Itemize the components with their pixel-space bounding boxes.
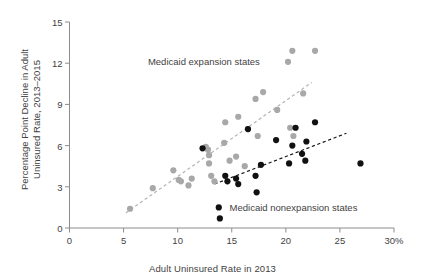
data-point bbox=[222, 173, 228, 179]
data-point bbox=[150, 185, 156, 191]
data-point bbox=[199, 145, 205, 151]
data-point bbox=[222, 119, 228, 125]
data-point bbox=[302, 158, 308, 164]
data-point bbox=[233, 175, 239, 181]
data-point bbox=[206, 152, 212, 158]
x-axis-title: Adult Uninsured Rate in 2013 bbox=[0, 263, 425, 274]
data-point bbox=[211, 178, 217, 184]
plot-area bbox=[0, 0, 425, 277]
data-point bbox=[217, 215, 223, 221]
data-point bbox=[252, 173, 258, 179]
nonexpansion-label: Medicaid nonexpansion states bbox=[230, 202, 358, 213]
data-point bbox=[178, 178, 184, 184]
data-point bbox=[252, 96, 258, 102]
y-axis-title: Percentage Point Decline in Adult Uninsu… bbox=[19, 5, 42, 235]
data-point bbox=[292, 125, 298, 131]
data-point bbox=[235, 114, 241, 120]
data-point bbox=[260, 89, 266, 95]
y-tick-label-3: 3 bbox=[57, 181, 62, 192]
data-point bbox=[255, 133, 261, 139]
data-point bbox=[245, 126, 251, 132]
data-point bbox=[235, 181, 241, 187]
expansion-trendline bbox=[126, 82, 312, 212]
data-point bbox=[221, 140, 227, 146]
data-point bbox=[357, 160, 363, 166]
x-tick-label-5: 5 bbox=[121, 235, 126, 246]
data-point bbox=[170, 167, 176, 173]
x-tick-label-20: 20 bbox=[281, 235, 292, 246]
data-point bbox=[285, 59, 291, 65]
y-tick-label-6: 6 bbox=[57, 140, 62, 151]
data-point bbox=[205, 147, 211, 153]
y-axis-title-line-1: Percentage Point Decline in Adult bbox=[19, 5, 31, 235]
data-point bbox=[303, 138, 309, 144]
data-point bbox=[242, 163, 248, 169]
scatter-chart: Percentage Point Decline in Adult Uninsu… bbox=[0, 0, 425, 277]
data-point bbox=[127, 206, 133, 212]
data-point bbox=[206, 160, 212, 166]
y-tick-label-12: 12 bbox=[52, 58, 63, 69]
data-point bbox=[273, 137, 279, 143]
series-medicaid-expansion-states bbox=[127, 48, 318, 212]
x-tick-label-25: 25 bbox=[335, 235, 346, 246]
x-tick-label-30: 30% bbox=[384, 235, 403, 246]
data-point bbox=[258, 162, 264, 168]
data-point bbox=[312, 48, 318, 54]
data-point bbox=[274, 107, 280, 113]
x-tick-label-10: 10 bbox=[172, 235, 183, 246]
data-point bbox=[287, 125, 293, 131]
data-point bbox=[312, 119, 318, 125]
y-tick-label-0: 0 bbox=[57, 223, 62, 234]
data-point bbox=[216, 204, 222, 210]
data-point bbox=[290, 133, 296, 139]
x-tick-label-0: 0 bbox=[67, 235, 72, 246]
data-point bbox=[233, 153, 239, 159]
data-point bbox=[289, 48, 295, 54]
data-point bbox=[185, 182, 191, 188]
y-tick-label-15: 15 bbox=[52, 17, 63, 28]
y-axis-title-line-2: Uninsured Rate, 2013–2015 bbox=[30, 5, 42, 235]
data-point bbox=[226, 158, 232, 164]
data-point bbox=[224, 178, 230, 184]
data-point bbox=[289, 143, 295, 149]
data-point bbox=[299, 151, 305, 157]
data-point bbox=[300, 90, 306, 96]
expansion-label: Medicaid expansion states bbox=[148, 56, 260, 67]
data-point bbox=[189, 175, 195, 181]
y-tick-label-9: 9 bbox=[57, 99, 62, 110]
x-tick-label-15: 15 bbox=[226, 235, 237, 246]
data-point bbox=[208, 173, 214, 179]
data-point bbox=[254, 189, 260, 195]
data-point bbox=[286, 160, 292, 166]
